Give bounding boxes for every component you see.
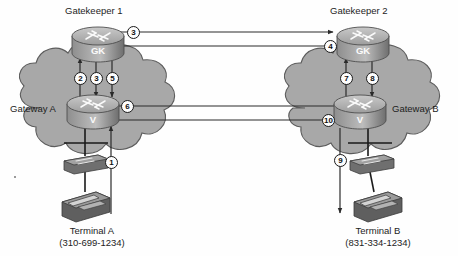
- step-badge-4: 4: [324, 40, 337, 53]
- terminal-a-label: Terminal A: [54, 226, 130, 237]
- gateway-a-glyph: V: [90, 114, 97, 125]
- gatekeeper-2-glyph: GK: [356, 45, 370, 56]
- terminal-a-phone-number: (310-699-1234): [44, 238, 140, 249]
- step-badge-6: 6: [121, 100, 134, 113]
- step-badge-1: 1: [105, 156, 118, 169]
- diagram-svg: GK GK V V: [0, 0, 458, 256]
- gatekeeper-1-glyph: GK: [91, 45, 105, 56]
- step-badge-5: 5: [106, 72, 119, 85]
- gateway-b-glyph: V: [357, 114, 364, 125]
- step-badge-7: 7: [340, 72, 353, 85]
- network-diagram-canvas: GK GK V V Gatekeeper 1 Gatekeeper 2 Gate…: [0, 0, 458, 256]
- gatekeeper-1-label: Gatekeeper 1: [65, 6, 123, 17]
- device-terminal-b-phone[interactable]: [354, 192, 402, 222]
- terminal-b-phone-number: (831-334-1234): [330, 238, 426, 249]
- gateway-a-label: Gateway A: [10, 104, 56, 115]
- gatekeeper-2-label: Gatekeeper 2: [330, 6, 388, 17]
- step-badge-3-right: 3: [127, 26, 140, 39]
- step-badge-9: 9: [334, 154, 347, 167]
- scan-artifact-speck: [14, 176, 16, 178]
- gateway-b-label: Gateway B: [392, 104, 438, 115]
- step-badge-2: 2: [74, 72, 87, 85]
- step-badge-10: 10: [322, 114, 335, 127]
- device-switch-b[interactable]: [350, 155, 394, 174]
- step-badge-8: 8: [366, 72, 379, 85]
- terminal-b-label: Terminal B: [340, 226, 416, 237]
- device-switch-a[interactable]: [64, 155, 108, 174]
- device-terminal-a-phone[interactable]: [62, 192, 110, 222]
- step-badge-3-down: 3: [90, 72, 103, 85]
